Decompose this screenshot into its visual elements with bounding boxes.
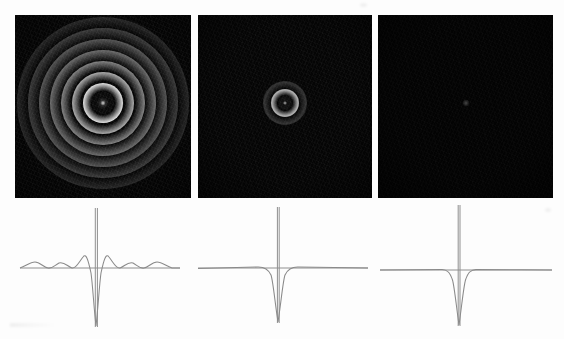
profile-plot-a <box>8 205 188 335</box>
profile-curve-c <box>380 270 552 325</box>
image-panel-b <box>198 15 372 198</box>
paper-fleck-mid-right <box>545 208 551 212</box>
profile-curve-a <box>20 256 180 326</box>
figure-canvas <box>0 0 564 339</box>
profile-plot-c <box>372 205 556 335</box>
profile-plot-b-svg <box>192 205 372 335</box>
image-panel-c <box>378 15 553 198</box>
image-panel-a <box>15 15 191 198</box>
paper-smudge-bottom-left <box>10 323 56 327</box>
paper-fleck-top-right <box>360 3 367 7</box>
profile-plot-b <box>192 205 372 335</box>
panel-a-vignette <box>15 15 191 198</box>
profile-plot-c-svg <box>372 205 558 337</box>
panel-b-vignette <box>198 15 372 198</box>
profile-plot-a-svg <box>8 205 188 335</box>
panel-c-vignette <box>378 15 553 198</box>
profile-curve-b <box>198 267 368 322</box>
